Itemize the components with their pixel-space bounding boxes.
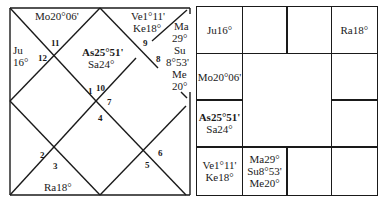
planet-ketu-label: Ke18° bbox=[133, 22, 161, 34]
planet-jupiter-label: Ju bbox=[13, 44, 23, 56]
planet-saturn-label: Sa24° bbox=[206, 123, 232, 135]
planet-rahu-label: Ra18° bbox=[44, 181, 72, 193]
planet-mars-label: Ma bbox=[174, 20, 189, 32]
cell-r1c3 bbox=[331, 53, 379, 101]
planet-jupiter-degree: 16° bbox=[13, 56, 28, 68]
ascendant-label: As25°51' bbox=[199, 111, 241, 123]
planet-moon-label: Mo20°06' bbox=[198, 71, 242, 83]
cell-r3c2 bbox=[286, 146, 332, 196]
house-number-2: 2 bbox=[40, 150, 45, 160]
house-number-8: 8 bbox=[156, 54, 161, 64]
cell-r3c3 bbox=[331, 146, 379, 196]
cell-r2c3 bbox=[331, 99, 379, 148]
house-number-6: 6 bbox=[158, 148, 163, 158]
cell-r0c2 bbox=[286, 6, 332, 54]
planet-moon-label: Mo20°06' bbox=[35, 10, 79, 22]
ascendant-label: As25°51' bbox=[82, 46, 124, 58]
planet-sun-label: Su8°53' bbox=[247, 165, 282, 177]
planet-ketu-label: Ke18° bbox=[205, 171, 233, 183]
planet-sun-label: Su bbox=[174, 44, 186, 56]
planet-mars-label: Ma29° bbox=[249, 153, 279, 165]
house-number-1: 1 bbox=[88, 86, 93, 96]
planet-venus-label: Ve1°11' bbox=[202, 159, 236, 171]
north-indian-chart: 1 2 3 4 5 6 7 8 9 10 11 12 Mo20°06' Ju 1… bbox=[0, 0, 192, 201]
house-number-3: 3 bbox=[53, 161, 58, 171]
planet-mercury-label: Me20° bbox=[249, 177, 279, 189]
south-indian-chart: Ju16° Ra18° Mo20°06' As25°51' Sa24° Ve1°… bbox=[196, 6, 378, 196]
house-number-7: 7 bbox=[107, 97, 112, 107]
cell-r0c3: Ra18° bbox=[331, 6, 379, 54]
planet-mars-degree: 29° bbox=[172, 32, 187, 44]
cell-r1c0: Mo20°06' bbox=[196, 53, 243, 101]
planet-mercury-degree: 20° bbox=[172, 80, 187, 92]
planet-sun-degree: 8°53' bbox=[166, 56, 189, 68]
house-number-5: 5 bbox=[145, 160, 150, 170]
house-number-10: 10 bbox=[96, 83, 105, 93]
cell-r3c0: Ve1°11' Ke18° bbox=[196, 146, 243, 196]
cell-r0c1 bbox=[242, 6, 288, 54]
chart-lines bbox=[0, 0, 192, 201]
house-number-11: 11 bbox=[51, 38, 60, 48]
house-number-12: 12 bbox=[38, 53, 47, 63]
cell-r3c1: Ma29° Su8°53' Me20° bbox=[242, 146, 288, 196]
cell-r0c0: Ju16° bbox=[196, 6, 243, 54]
planet-jupiter-label: Ju16° bbox=[207, 24, 232, 36]
planet-mercury-label: Me bbox=[172, 68, 187, 80]
planet-saturn-label: Sa24° bbox=[88, 58, 114, 70]
planet-rahu-label: Ra18° bbox=[340, 24, 368, 36]
planet-venus-label: Ve1°11' bbox=[131, 10, 165, 22]
house-number-9: 9 bbox=[143, 38, 148, 48]
center-box bbox=[242, 53, 333, 148]
cell-r2c0: As25°51' Sa24° bbox=[196, 99, 243, 148]
house-number-4: 4 bbox=[98, 113, 103, 123]
